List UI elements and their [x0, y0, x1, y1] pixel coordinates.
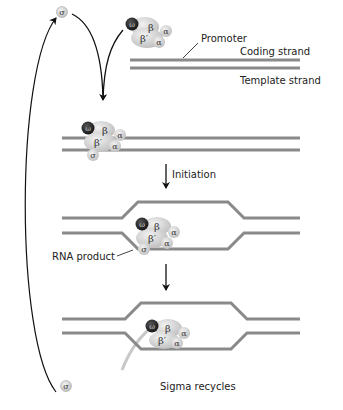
promoter-label: Promoter	[201, 33, 248, 44]
dna-open-complex	[62, 202, 300, 249]
svg-text:β: β	[154, 221, 160, 232]
svg-text:β: β	[165, 323, 171, 334]
template-strand-label: Template strand	[239, 75, 321, 86]
svg-text:σ: σ	[59, 8, 65, 17]
svg-text:α: α	[171, 228, 177, 237]
dna-free	[130, 60, 300, 68]
svg-text:ω: ω	[149, 323, 155, 331]
svg-text:α: α	[163, 27, 169, 36]
transcription-diagram: σ ω β β′ α α Promoter Coding strand Temp…	[0, 0, 343, 410]
svg-text:ω: ω	[139, 221, 145, 229]
svg-text:σ: σ	[63, 382, 69, 391]
svg-text:β′: β′	[94, 137, 103, 148]
svg-text:β′: β′	[140, 33, 149, 44]
initiation-label: Initiation	[172, 169, 216, 180]
svg-text:α: α	[174, 339, 180, 348]
svg-text:ω: ω	[85, 125, 91, 133]
core-enzyme-top: ω β β′ α α	[126, 17, 173, 48]
core-enzyme-elongating: ω β β′ α α	[146, 319, 191, 349]
holoenzyme-closed: ω β β′ α α σ	[82, 121, 127, 161]
coding-strand-label: Coding strand	[240, 46, 310, 57]
svg-text:α: α	[112, 142, 118, 151]
promoter-pointer	[183, 43, 198, 58]
svg-text:α: α	[164, 239, 170, 248]
sigma-recycles-label: Sigma recycles	[160, 381, 236, 392]
svg-text:α: α	[117, 131, 123, 140]
core-join-arrow	[103, 30, 123, 100]
svg-text:σ: σ	[141, 245, 147, 254]
svg-text:β′: β′	[148, 233, 157, 244]
svg-text:β: β	[102, 125, 108, 136]
svg-text:σ: σ	[90, 151, 96, 160]
svg-text:α: α	[156, 38, 162, 47]
svg-text:β: β	[148, 22, 154, 33]
svg-text:β′: β′	[158, 335, 167, 346]
rna-product-label: RNA product	[52, 251, 115, 262]
sigma-recycle-arrow	[25, 18, 56, 392]
svg-text:ω: ω	[129, 21, 135, 29]
sigma-join-arrow	[72, 14, 103, 98]
svg-text:α: α	[181, 329, 187, 338]
sigma-free-top: σ	[57, 7, 68, 18]
rna-product-pointer	[117, 250, 133, 256]
sigma-free-bottom: σ	[61, 381, 72, 392]
